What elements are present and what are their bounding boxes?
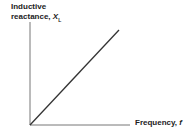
y-label-line2: reactance, XL bbox=[11, 12, 61, 25]
y-axis-label: Inductive reactance, XL bbox=[11, 2, 61, 25]
y-label-line1: Inductive bbox=[11, 2, 61, 12]
x-axis-label: Frequency, f bbox=[135, 118, 182, 128]
data-line bbox=[30, 30, 119, 125]
